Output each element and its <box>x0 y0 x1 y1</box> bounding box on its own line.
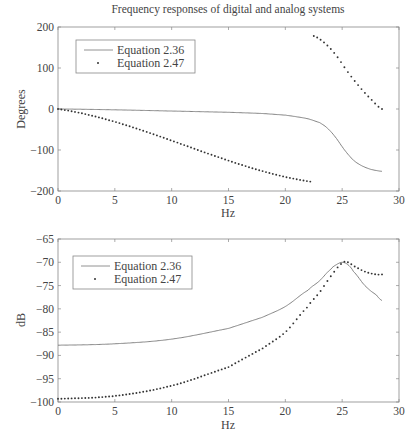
dotted-series-point <box>173 140 175 142</box>
dotted-series-point <box>350 263 352 265</box>
dotted-series-point <box>268 172 270 174</box>
dotted-series-point <box>367 96 369 98</box>
dotted-series-point <box>166 138 168 140</box>
dotted-series-point <box>258 349 260 351</box>
phase-legend: Equation 2.36 Equation 2.47 <box>76 40 195 73</box>
dotted-series-point <box>129 393 131 395</box>
dotted-series-point <box>357 267 359 269</box>
y-tick-label: −70 <box>36 256 54 268</box>
dotted-series-point <box>217 156 219 158</box>
legend-label-eq236: Equation 2.36 <box>114 259 181 273</box>
dotted-series-point <box>71 110 73 112</box>
dotted-series-point <box>176 142 178 144</box>
dotted-series-point <box>275 174 277 176</box>
dotted-series-point <box>361 88 363 90</box>
dotted-series-point <box>190 147 192 149</box>
dotted-series-point <box>248 166 250 168</box>
dotted-series-point <box>214 371 216 373</box>
dotted-series-point <box>296 178 298 180</box>
dotted-series-point <box>371 99 373 101</box>
dotted-series-point <box>163 137 165 139</box>
dotted-series-point <box>350 76 352 78</box>
dotted-series-point <box>343 66 345 68</box>
y-tick-label: 200 <box>37 21 55 33</box>
dotted-series-point <box>333 52 335 54</box>
y-tick-label: −100 <box>30 396 54 408</box>
magnitude-x-axis-label: Hz <box>221 418 235 432</box>
dotted-series-point <box>354 266 356 268</box>
dotted-series-point <box>153 389 155 391</box>
magnitude-chart: 051015202530−100−95−90−85−80−75−70−65 dB… <box>14 233 405 432</box>
x-tick-label: 25 <box>336 405 348 417</box>
dotted-series-point <box>357 84 359 86</box>
dotted-series-point <box>112 120 114 122</box>
dotted-series-point <box>265 171 267 173</box>
phase-y-axis-label: Degrees <box>14 89 28 129</box>
dotted-series-point <box>60 109 62 111</box>
dotted-series-point <box>132 393 134 395</box>
dotted-series-point <box>125 124 127 126</box>
dotted-series-point <box>381 273 383 275</box>
legend-dot-icon <box>94 278 96 280</box>
dotted-series-point <box>159 387 161 389</box>
dotted-series-point <box>163 387 165 389</box>
dotted-series-point <box>149 132 151 134</box>
dotted-series-point <box>95 397 97 399</box>
dotted-series-point <box>211 372 213 374</box>
phase-x-axis-label: Hz <box>221 206 235 220</box>
dotted-series-point <box>200 376 202 378</box>
solid-series-line <box>58 109 382 171</box>
dotted-series-point <box>268 343 270 345</box>
magnitude-legend: Equation 2.36 Equation 2.47 <box>73 256 192 289</box>
dotted-series-point <box>67 110 69 112</box>
dotted-series-point <box>326 280 328 282</box>
dotted-series-point <box>115 121 117 123</box>
dotted-series-point <box>64 109 66 111</box>
y-tick-label: −90 <box>36 349 54 361</box>
dotted-series-point <box>306 307 308 309</box>
dotted-series-point <box>190 379 192 381</box>
dotted-series-point <box>115 395 117 397</box>
dotted-series-point <box>282 333 284 335</box>
dotted-series-point <box>64 398 66 400</box>
dotted-series-point <box>347 71 349 73</box>
x-tick-label: 0 <box>55 194 61 206</box>
dotted-series-point <box>84 397 86 399</box>
x-tick-label: 10 <box>166 405 178 417</box>
dotted-series-point <box>340 263 342 265</box>
dotted-series-point <box>98 396 100 398</box>
x-tick-label: 5 <box>112 405 118 417</box>
dotted-series-point <box>105 118 107 120</box>
x-tick-label: 5 <box>112 194 118 206</box>
dotted-series-point <box>381 108 383 110</box>
dotted-series-point <box>313 298 315 300</box>
dotted-series-point <box>361 269 363 271</box>
dotted-series-point <box>139 391 141 393</box>
dotted-series-point <box>245 357 247 359</box>
dotted-series-point <box>214 155 216 157</box>
dotted-series-point <box>286 330 288 332</box>
dotted-series-point <box>238 360 240 362</box>
dotted-series-point <box>112 395 114 397</box>
dotted-series-point <box>204 374 206 376</box>
dotted-series-point <box>180 382 182 384</box>
y-tick-label: −80 <box>36 303 54 315</box>
dotted-series-point <box>187 145 189 147</box>
dotted-series-point <box>200 150 202 152</box>
x-tick-label: 20 <box>280 194 292 206</box>
dotted-series-point <box>228 160 230 162</box>
dotted-series-point <box>289 177 291 179</box>
dotted-series-point <box>156 134 158 136</box>
dotted-series-point <box>299 314 301 316</box>
dotted-series-point <box>118 122 120 124</box>
dotted-series-point <box>135 392 137 394</box>
dotted-series-point <box>292 322 294 324</box>
dotted-series-point <box>272 341 274 343</box>
dotted-series-point <box>81 112 83 114</box>
chart-canvas: Frequency responses of digital and analo… <box>0 0 420 441</box>
dotted-series-point <box>316 37 318 39</box>
dotted-series-point <box>57 108 59 110</box>
dotted-series-point <box>173 384 175 386</box>
dotted-series-point <box>234 162 236 164</box>
dotted-series-point <box>81 397 83 399</box>
